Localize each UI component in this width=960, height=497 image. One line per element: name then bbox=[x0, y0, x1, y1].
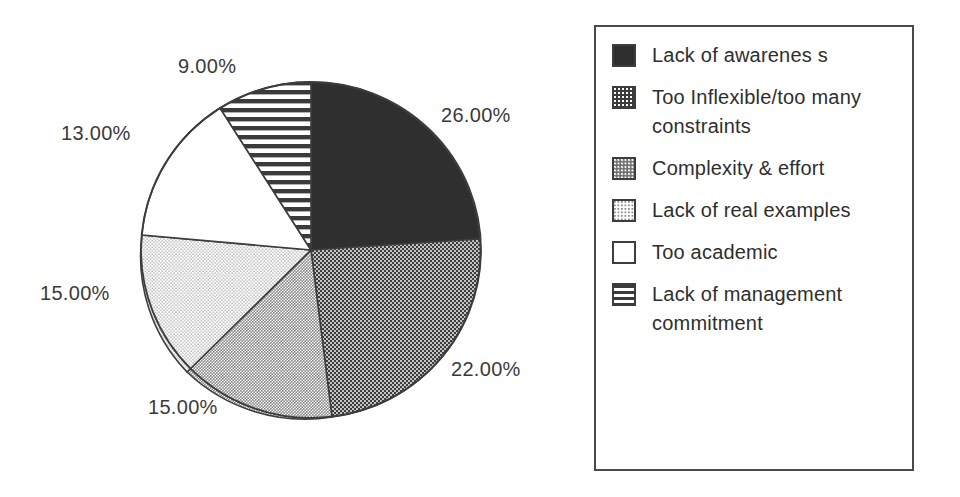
pie-label-15-examples: 15.00% bbox=[40, 282, 110, 305]
pie-slice-too-inflexible[interactable] bbox=[311, 239, 480, 417]
legend-swatch-white-icon bbox=[612, 241, 636, 264]
legend-swatch-mid-dot-icon bbox=[612, 157, 636, 180]
legend-item-complexity-effort[interactable]: Complexity & effort bbox=[612, 154, 902, 183]
legend-box: Lack of awarenes s Too Inflexible/too ma… bbox=[594, 25, 914, 471]
pie-chart-svg bbox=[0, 0, 580, 497]
pie-label-13: 13.00% bbox=[61, 122, 131, 145]
legend-swatch-solid-dark-icon bbox=[612, 44, 636, 67]
legend-swatch-dark-dot-icon bbox=[612, 86, 636, 109]
legend-label: Too Inflexible/too many constraints bbox=[652, 83, 900, 141]
legend-item-lack-of-real-examples[interactable]: Lack of real examples bbox=[612, 196, 902, 225]
legend-label: Complexity & effort bbox=[652, 154, 824, 183]
legend-item-lack-of-management-commitment[interactable]: Lack of management commitment bbox=[612, 280, 902, 338]
pie-label-9: 9.00% bbox=[178, 55, 236, 78]
pie-label-22: 22.00% bbox=[451, 358, 521, 381]
legend-label: Lack of awarenes s bbox=[652, 41, 828, 70]
pie-chart-figure: 26.00% 22.00% 15.00% 15.00% 13.00% 9.00% bbox=[0, 0, 580, 497]
legend-label: Too academic bbox=[652, 238, 778, 267]
legend-item-too-academic[interactable]: Too academic bbox=[612, 238, 902, 267]
pie-label-15-complexity: 15.00% bbox=[148, 396, 218, 419]
legend-label: Lack of real examples bbox=[652, 196, 851, 225]
chart-canvas: 26.00% 22.00% 15.00% 15.00% 13.00% 9.00%… bbox=[0, 0, 960, 497]
pie-label-26: 26.00% bbox=[441, 104, 511, 127]
legend-swatch-horizontal-stripes-icon bbox=[612, 283, 636, 306]
legend-label: Lack of management commitment bbox=[652, 280, 900, 338]
legend-swatch-light-dot-icon bbox=[612, 199, 636, 222]
legend-item-lack-of-awareness[interactable]: Lack of awarenes s bbox=[612, 41, 902, 70]
legend-list: Lack of awarenes s Too Inflexible/too ma… bbox=[612, 41, 902, 351]
legend-item-too-inflexible[interactable]: Too Inflexible/too many constraints bbox=[612, 83, 902, 141]
